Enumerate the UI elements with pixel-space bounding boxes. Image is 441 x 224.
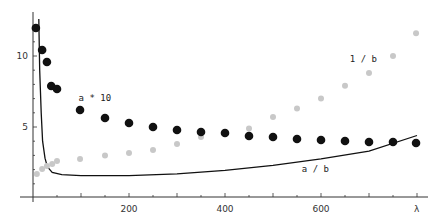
data-point bbox=[390, 53, 396, 59]
y-tick-label: 10 bbox=[17, 51, 29, 61]
data-point bbox=[245, 132, 254, 141]
data-point bbox=[32, 24, 41, 33]
data-point bbox=[294, 106, 300, 112]
data-point bbox=[221, 129, 230, 138]
data-point bbox=[174, 141, 180, 147]
y-tick-label: 5 bbox=[22, 122, 28, 132]
data-point bbox=[101, 114, 110, 123]
data-point bbox=[270, 114, 276, 120]
y-ticks: 510 bbox=[17, 28, 37, 184]
data-point bbox=[53, 85, 62, 94]
data-point bbox=[293, 135, 302, 144]
data-point bbox=[389, 138, 398, 147]
data-point bbox=[38, 46, 47, 55]
data-point bbox=[34, 171, 40, 177]
series-annotation: 1 / b bbox=[350, 54, 377, 64]
data-point bbox=[366, 70, 372, 76]
data-point bbox=[43, 58, 52, 67]
series-annotation: a * 10 bbox=[79, 93, 112, 103]
data-point bbox=[54, 158, 60, 164]
x-tick-label: 200 bbox=[120, 204, 137, 214]
annotations: a * 101 / ba / b bbox=[79, 54, 377, 175]
data-point bbox=[173, 126, 182, 135]
data-point bbox=[365, 138, 374, 147]
data-point bbox=[269, 133, 278, 142]
x-axis-label: λ bbox=[414, 204, 420, 214]
data-point bbox=[44, 163, 50, 169]
data-point bbox=[341, 137, 350, 146]
x-tick-label: 600 bbox=[312, 204, 329, 214]
data-point bbox=[317, 136, 326, 145]
x-ticks: 200400600 bbox=[57, 193, 417, 214]
data-point bbox=[126, 150, 132, 156]
series-annotation: a / b bbox=[302, 164, 329, 174]
data-point bbox=[413, 30, 419, 36]
data-point bbox=[77, 156, 83, 162]
data-point bbox=[318, 96, 324, 102]
data-point bbox=[125, 119, 134, 128]
chart: 200400600 510 λ a * 101 / ba / b bbox=[0, 0, 441, 224]
data-point bbox=[197, 128, 206, 137]
data-point bbox=[76, 106, 85, 115]
data-point bbox=[150, 147, 156, 153]
data-point bbox=[102, 152, 108, 158]
data-point bbox=[342, 83, 348, 89]
data-point bbox=[412, 139, 421, 148]
data-point bbox=[149, 123, 158, 132]
data-point bbox=[246, 125, 252, 131]
x-tick-label: 400 bbox=[216, 204, 233, 214]
